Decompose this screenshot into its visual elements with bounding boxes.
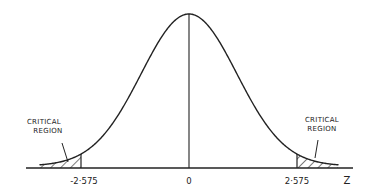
tick-label-right-critical: 2·575 xyxy=(285,176,309,186)
left-annotation-line1: CRITICAL xyxy=(27,118,61,126)
tick-label-center: 0 xyxy=(186,176,191,186)
right-critical-region-shading xyxy=(297,154,338,168)
right-annotation-line1: CRITICAL xyxy=(305,116,339,124)
left-annotation-line2: REGION xyxy=(33,127,62,135)
left-annotation-pointer xyxy=(62,143,68,162)
normal-distribution-diagram: CRITICAL REGION CRITICAL REGION -2·575 0… xyxy=(0,0,375,192)
axis-label-z: Z xyxy=(344,175,351,186)
left-critical-region-shading xyxy=(40,154,81,168)
right-annotation-line2: REGION xyxy=(307,125,336,133)
tick-label-left-critical: -2·575 xyxy=(70,176,97,186)
right-annotation-pointer xyxy=(315,140,318,158)
